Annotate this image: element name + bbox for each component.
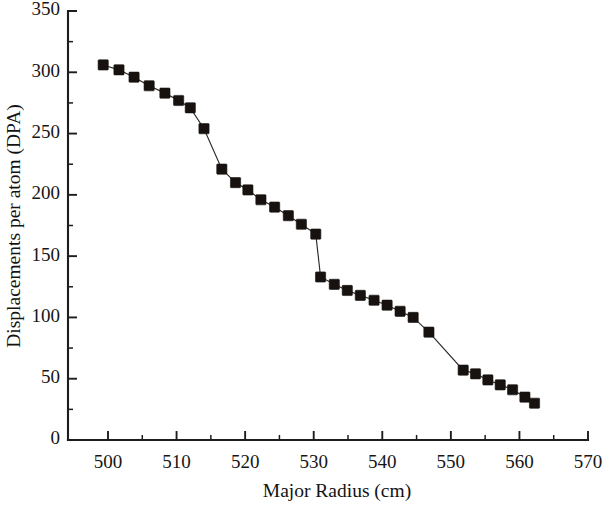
x-axis-title: Major Radius (cm): [263, 480, 411, 502]
data-point-marker: [395, 306, 405, 316]
data-point-marker: [230, 178, 240, 188]
data-point-marker: [217, 164, 227, 174]
y-tick-labels: 050100150200250300350: [32, 0, 61, 448]
data-point-marker: [458, 365, 468, 375]
y-tick-label-250: 250: [32, 121, 61, 142]
y-tick-label-100: 100: [32, 305, 61, 326]
data-point-marker: [495, 380, 505, 390]
data-point-marker: [315, 272, 325, 282]
x-tick-label-510: 510: [162, 451, 191, 472]
x-tick-label-530: 530: [299, 451, 328, 472]
data-point-marker: [342, 285, 352, 295]
x-tick-label-540: 540: [368, 451, 397, 472]
data-point-marker: [270, 202, 280, 212]
dpa-vs-major-radius-chart: 500510520530540550560570 050100150200250…: [0, 0, 613, 512]
y-axis-title: Displacements per atom (DPA): [3, 104, 25, 348]
axes: [68, 11, 588, 440]
data-point-marker: [98, 60, 108, 70]
data-point-marker: [144, 81, 154, 91]
data-point-marker: [529, 398, 539, 408]
y-tick-label-0: 0: [51, 427, 61, 448]
data-point-marker: [256, 195, 266, 205]
data-point-marker: [199, 124, 209, 134]
x-tick-label-560: 560: [505, 451, 534, 472]
y-tick-label-50: 50: [41, 366, 60, 387]
data-point-marker: [470, 369, 480, 379]
data-point-marker: [507, 385, 517, 395]
data-point-marker: [369, 295, 379, 305]
data-point-marker: [160, 88, 170, 98]
y-tick-label-350: 350: [32, 0, 61, 19]
data-point-marker: [185, 103, 195, 113]
x-tick-label-500: 500: [94, 451, 123, 472]
data-point-marker: [329, 279, 339, 289]
data-point-marker: [114, 65, 124, 75]
data-point-marker: [483, 375, 493, 385]
x-tick-label-570: 570: [574, 451, 603, 472]
x-tick-label-550: 550: [437, 451, 466, 472]
x-tick-labels: 500510520530540550560570: [94, 451, 603, 472]
data-point-marker: [408, 312, 418, 322]
chart-figure: 500510520530540550560570 050100150200250…: [0, 0, 613, 512]
y-tick-label-300: 300: [32, 60, 61, 81]
y-tick-label-200: 200: [32, 182, 61, 203]
data-point-marker: [296, 219, 306, 229]
x-tick-label-520: 520: [231, 451, 260, 472]
data-point-marker: [424, 327, 434, 337]
data-point-marker: [520, 392, 530, 402]
data-series: [98, 60, 540, 409]
data-point-marker: [243, 185, 253, 195]
y-tick-label-150: 150: [32, 244, 61, 265]
data-point-marker: [129, 72, 139, 82]
data-point-marker: [283, 211, 293, 221]
data-point-marker: [311, 229, 321, 239]
data-point-marker: [174, 95, 184, 105]
data-point-marker: [382, 300, 392, 310]
data-point-marker: [355, 290, 365, 300]
